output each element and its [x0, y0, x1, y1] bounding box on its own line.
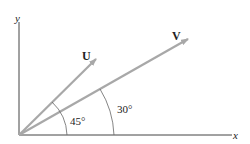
angle-arc-30: [100, 89, 114, 135]
vector-u-label: U: [82, 49, 91, 63]
x-axis-label: x: [232, 129, 238, 141]
angle-arc-45: [52, 102, 67, 135]
vector-v-arrow: [19, 39, 188, 135]
vector-v-label: V: [172, 29, 181, 43]
angle-label-30: 30°: [117, 103, 132, 115]
angle-label-45: 45°: [70, 115, 85, 127]
y-axis-label: y: [14, 12, 20, 24]
vector-diagram: y x U V 45° 30°: [0, 0, 250, 144]
